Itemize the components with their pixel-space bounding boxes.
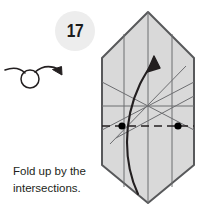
caption-line-1: Fold up by the (13, 163, 133, 180)
instruction-panel: 17 (0, 0, 201, 213)
intersection-dot-right (174, 122, 181, 129)
step-caption: Fold up by the intersections. (13, 163, 133, 197)
step-number-badge: 17 (55, 11, 95, 51)
intersection-dot-left (118, 122, 125, 129)
caption-line-2: intersections. (13, 180, 133, 197)
turn-over-icon (4, 57, 68, 97)
step-number-label: 17 (67, 21, 84, 41)
